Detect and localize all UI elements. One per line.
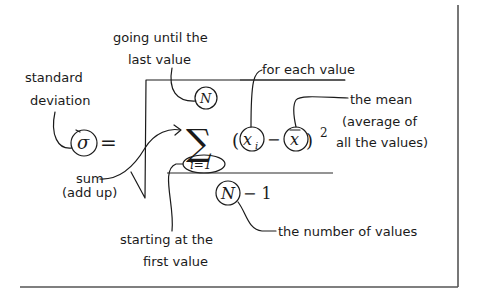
x-i-subscript: i	[255, 140, 258, 151]
label-standard-deviation-line1: standard	[25, 70, 83, 85]
leader-the-mean	[294, 97, 348, 127]
exponent-2: 2	[320, 126, 328, 140]
label-going-until-line2: last value	[128, 52, 191, 67]
label-starting-at-line2: first value	[143, 254, 208, 269]
denominator-N: N	[220, 184, 236, 203]
x-bar: x	[290, 130, 299, 149]
leader-for-each-value	[251, 70, 262, 127]
equals-sign: =	[100, 131, 117, 155]
label-the-mean-line1: the mean	[350, 92, 412, 107]
minus-sign: −	[267, 130, 280, 149]
upper-limit-N: N	[199, 91, 212, 106]
leader-going-until	[171, 68, 196, 101]
denominator-minus-one: − 1	[243, 184, 272, 203]
label-going-until-line1: going until the	[113, 30, 208, 45]
label-sum-line1: sum	[76, 171, 104, 186]
leader-starting-at	[168, 164, 183, 231]
label-the-mean-line3: all the values)	[336, 135, 428, 150]
leader-standard-deviation	[54, 112, 72, 148]
leader-number-of-values	[238, 202, 276, 231]
label-standard-deviation-line2: deviation	[30, 93, 90, 108]
label-starting-at-line1: starting at the	[120, 232, 213, 247]
x-i-base: x	[243, 130, 252, 149]
label-the-mean-line2: (average of	[342, 114, 417, 129]
std-dev-diagram: going until the last value standard devi…	[0, 0, 479, 293]
sigma-symbol: σ	[77, 132, 90, 153]
label-for-each-value: for each value	[262, 62, 355, 77]
lower-limit-i1: i=1	[190, 158, 212, 172]
close-paren: )	[306, 130, 313, 151]
label-sum-line2: (add up)	[62, 185, 117, 200]
label-number-of-values: the number of values	[278, 224, 418, 239]
open-paren: (	[232, 130, 239, 151]
